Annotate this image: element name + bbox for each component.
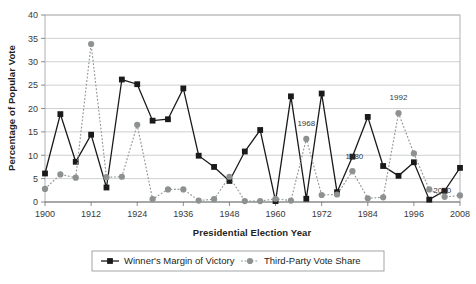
- x-tick-label: 1996: [404, 209, 424, 219]
- x-tick-label: 1984: [358, 209, 378, 219]
- data-point-marker: [288, 93, 294, 99]
- data-point-marker: [457, 192, 463, 198]
- x-tick-label: 1924: [127, 209, 147, 219]
- data-point-marker: [380, 163, 386, 169]
- data-point-marker: [349, 168, 355, 174]
- data-point-marker: [42, 186, 48, 192]
- x-axis-ticks: 1900191219241936194819601972198419962008: [35, 202, 470, 219]
- data-point-marker: [211, 196, 217, 202]
- data-point-marker: [396, 173, 402, 179]
- data-point-marker: [104, 185, 110, 191]
- annotation-label-2000: 2000: [433, 186, 451, 195]
- data-point-marker: [73, 175, 79, 181]
- data-point-marker: [134, 81, 140, 87]
- y-tick-label: 40: [28, 10, 38, 20]
- y-tick-label: 25: [28, 80, 38, 90]
- annotation-label-1980: 1980: [346, 152, 364, 161]
- data-point-marker: [411, 159, 417, 165]
- y-tick-label: 35: [28, 34, 38, 44]
- x-tick-label: 1972: [312, 209, 332, 219]
- data-point-marker: [365, 195, 371, 201]
- y-tick-label: 15: [28, 127, 38, 137]
- x-axis-title: Presidential Election Year: [193, 227, 312, 238]
- legend-label-winner-margin: Winner's Margin of Victory: [124, 255, 235, 266]
- data-point-marker: [319, 192, 325, 198]
- data-point-marker: [457, 165, 463, 171]
- x-tick-label: 1936: [173, 209, 193, 219]
- x-tick-label: 2008: [450, 209, 470, 219]
- data-point-marker: [288, 198, 294, 204]
- chart-container: 0510152025303540 19001912192419361948196…: [0, 0, 476, 284]
- y-tick-label: 30: [28, 57, 38, 67]
- data-point-marker: [257, 127, 263, 133]
- legend-marker: [107, 258, 113, 264]
- chart-legend: Winner's Margin of VictoryThird-Party Vo…: [92, 251, 384, 271]
- data-point-marker: [57, 171, 63, 177]
- data-point-marker: [88, 41, 94, 47]
- data-point-marker: [134, 122, 140, 128]
- y-tick-label: 0: [33, 197, 38, 207]
- data-point-marker: [257, 198, 263, 204]
- data-point-marker: [303, 136, 309, 142]
- data-point-marker: [242, 149, 248, 155]
- data-point-marker: [103, 174, 109, 180]
- y-tick-label: 5: [33, 174, 38, 184]
- data-point-marker: [334, 191, 340, 197]
- data-point-marker: [165, 116, 171, 122]
- x-tick-label: 1912: [81, 209, 101, 219]
- data-point-marker: [119, 174, 125, 180]
- data-point-marker: [226, 174, 232, 180]
- data-point-marker: [180, 186, 186, 192]
- y-tick-label: 10: [28, 151, 38, 161]
- data-point-marker: [365, 114, 371, 120]
- data-point-marker: [88, 132, 94, 138]
- annotation-label-1968: 1968: [297, 119, 315, 128]
- data-point-marker: [149, 196, 155, 202]
- y-axis-title: Percentage of Popular Vote: [6, 45, 17, 171]
- data-point-marker: [319, 91, 325, 97]
- x-tick-label: 1948: [219, 209, 239, 219]
- data-point-marker: [426, 186, 432, 192]
- data-point-marker: [180, 86, 186, 92]
- data-point-marker: [119, 77, 125, 83]
- annotation-label-1992: 1992: [390, 93, 408, 102]
- data-point-marker: [426, 197, 432, 203]
- x-tick-label: 1960: [266, 209, 286, 219]
- data-point-marker: [150, 118, 156, 124]
- x-tick-label: 1900: [35, 209, 55, 219]
- data-point-marker: [303, 196, 309, 202]
- data-point-marker: [272, 196, 278, 202]
- data-point-marker: [380, 194, 386, 200]
- data-point-marker: [165, 186, 171, 192]
- y-tick-label: 20: [28, 104, 38, 114]
- data-point-marker: [395, 110, 401, 116]
- data-point-marker: [57, 111, 63, 117]
- legend-label-third-party: Third-Party Vote Share: [264, 255, 361, 266]
- data-point-marker: [411, 150, 417, 156]
- legend-marker: [247, 258, 253, 264]
- presidential-election-chart: 0510152025303540 19001912192419361948196…: [0, 0, 476, 284]
- data-point-marker: [242, 198, 248, 204]
- data-point-marker: [211, 164, 217, 170]
- data-point-marker: [196, 153, 202, 159]
- data-point-marker: [196, 198, 202, 204]
- data-point-marker: [42, 171, 48, 177]
